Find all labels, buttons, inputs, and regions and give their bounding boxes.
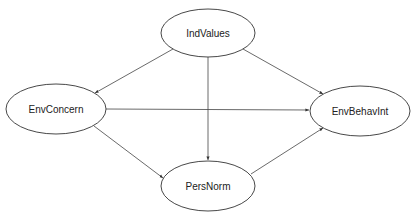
edge-indvalues-to-envbehavint <box>243 49 323 94</box>
edge-indvalues-to-envconcern <box>95 49 173 93</box>
node-indvalues: IndValues <box>161 9 255 57</box>
edges <box>94 49 323 178</box>
node-persnorm-label: PersNorm <box>185 181 230 192</box>
node-indvalues-label: IndValues <box>186 28 230 39</box>
path-diagram: IndValues EnvConcern EnvBehavInt PersNor… <box>0 0 417 221</box>
node-envbehavint: EnvBehavInt <box>310 86 410 136</box>
node-envbehavint-label: EnvBehavInt <box>332 106 389 117</box>
edge-envconcern-to-envbehavint <box>106 109 309 110</box>
edge-persnorm-to-envbehavint <box>251 128 323 174</box>
node-envconcern: EnvConcern <box>6 84 106 134</box>
node-envconcern-label: EnvConcern <box>28 104 83 115</box>
node-persnorm: PersNorm <box>161 161 255 211</box>
edge-envconcern-to-persnorm <box>94 126 163 178</box>
